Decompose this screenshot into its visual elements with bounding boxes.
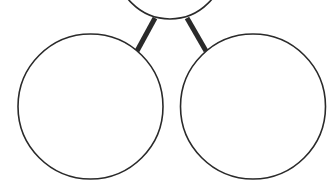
- tree-diagram: [0, 0, 331, 186]
- node-left-child: [18, 34, 163, 179]
- edge-root-to-left-child: [137, 18, 155, 51]
- node-root: [116, 0, 224, 19]
- edge-root-to-right-child: [187, 18, 206, 51]
- node-right-child: [181, 34, 326, 179]
